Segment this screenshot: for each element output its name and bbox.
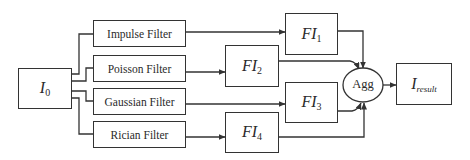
arrow-fi3-agg: [338, 103, 361, 111]
fi3-box: FI3: [285, 82, 338, 123]
rician-filter-box: Rician Filter: [93, 121, 186, 148]
output-image-box: Iresult: [396, 63, 452, 105]
connector-input-rician: [72, 98, 93, 134]
input-image-label: I0: [40, 79, 50, 98]
output-image-label: Iresult: [411, 75, 437, 94]
fi4-label: FI4: [242, 123, 262, 142]
aggregator-label: Agg: [343, 77, 383, 92]
fi3-label: FI3: [301, 93, 321, 112]
arrow-fi1-agg: [338, 31, 363, 68]
rician-filter-label: Rician Filter: [111, 129, 169, 141]
impulse-filter-box: Impulse Filter: [93, 20, 186, 47]
fi4-box: FI4: [225, 112, 279, 153]
fi1-box: FI1: [285, 13, 338, 55]
input-image-box: I0: [18, 68, 72, 109]
fi2-label: FI2: [242, 57, 262, 76]
filter-aggregation-diagram: I0 Impulse Filter Poisson Filter Gaussia…: [0, 0, 470, 160]
connector-input-gaussian: [72, 91, 93, 101]
impulse-filter-label: Impulse Filter: [107, 28, 172, 40]
fi2-box: FI2: [225, 45, 279, 87]
arrow-fi2-agg: [279, 61, 359, 69]
poisson-filter-label: Poisson Filter: [108, 63, 172, 75]
poisson-filter-box: Poisson Filter: [93, 55, 186, 82]
gaussian-filter-label: Gaussian Filter: [105, 96, 175, 108]
gaussian-filter-box: Gaussian Filter: [93, 88, 186, 115]
fi1-label: FI1: [301, 25, 321, 44]
